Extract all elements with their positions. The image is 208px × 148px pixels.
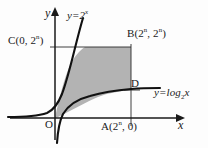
origin-label: O — [45, 119, 53, 130]
curve-exponential-label-base: y=2 — [67, 9, 85, 21]
point-b-label-mid: , 2 — [147, 27, 158, 39]
point-a-label: A(2n, 0) — [101, 121, 137, 132]
point-b-label-tail: ) — [162, 27, 166, 39]
curve-logarithmic-label: y=log2x — [154, 87, 189, 98]
x-axis-label: x — [178, 119, 183, 131]
point-c-label-tail: ) — [40, 34, 44, 46]
point-b-label: B(2n, 2n) — [127, 28, 166, 39]
y-axis-label: y — [45, 7, 50, 19]
point-a-label-tail: , 0) — [122, 120, 137, 132]
math-figure: y x O y=2x y=log2x C(0, 2n) B(2n, 2n) A(… — [0, 0, 208, 148]
point-d-label: D — [131, 78, 139, 89]
point-a-label-name: A(2 — [101, 120, 118, 132]
curve-exponential-label-exponent: x — [85, 8, 88, 15]
curve-logarithmic-label-tail: x — [184, 86, 189, 98]
curve-logarithmic-label-base: y=log — [154, 86, 181, 98]
curve-exponential-label: y=2x — [67, 10, 88, 21]
y-axis-arrow-icon — [51, 7, 59, 16]
point-b-label-name: B(2 — [127, 27, 144, 39]
point-c-label: C(0, 2n) — [8, 35, 43, 46]
point-c-label-name: C(0, 2 — [8, 34, 36, 46]
